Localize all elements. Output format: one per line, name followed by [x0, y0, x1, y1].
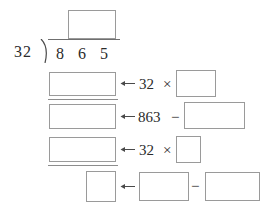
step-3-right-box[interactable]: [176, 136, 201, 163]
step-2-left-box[interactable]: [49, 104, 116, 129]
dividend-digit-3: 5: [100, 46, 108, 62]
step-3-expression-prefix: 32: [139, 143, 154, 158]
remainder-subtrahend-box[interactable]: [205, 172, 260, 201]
step-2-expression-prefix: 863: [138, 110, 161, 125]
division-vinculum: [48, 39, 120, 40]
divisor-value: 32: [14, 44, 32, 60]
step-3-underline: [48, 165, 118, 166]
step-2-left-arrow-icon: [120, 112, 135, 121]
division-bracket-icon: [40, 39, 50, 63]
long-division-worksheet: 32 8 6 5 32 × 863 −: [0, 0, 269, 208]
step-1-expression-prefix: 32: [139, 77, 154, 92]
step-1-multiplication-sign: ×: [163, 77, 171, 92]
step-3-multiplication-sign: ×: [163, 143, 171, 158]
step-2-right-box[interactable]: [184, 102, 245, 129]
quotient-answer-box[interactable]: [68, 10, 116, 39]
step-1-right-box[interactable]: [176, 70, 216, 97]
dividend-digit-1: 8: [56, 46, 64, 62]
step-2-minus-sign: −: [171, 110, 179, 125]
step-3-left-box[interactable]: [49, 137, 116, 162]
remainder-result-box[interactable]: [86, 171, 116, 202]
remainder-left-arrow-icon: [120, 182, 135, 191]
step-3-left-arrow-icon: [120, 145, 135, 154]
step-1-underline: [48, 99, 118, 100]
step-1-left-arrow-icon: [120, 79, 135, 88]
dividend-digit-2: 6: [78, 46, 86, 62]
remainder-minus-sign: −: [191, 179, 199, 194]
remainder-minuend-box[interactable]: [139, 172, 189, 201]
step-1-left-box[interactable]: [49, 72, 116, 96]
